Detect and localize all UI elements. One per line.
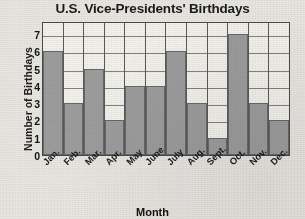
bar: [84, 69, 104, 155]
y-tick-label: 2: [26, 116, 40, 127]
chart-title: U.S. Vice-Presidents' Birthdays: [0, 1, 305, 16]
bar: [228, 34, 248, 155]
bar-slot: [187, 23, 208, 155]
y-tick-label: 4: [26, 82, 40, 93]
bar-slot: [146, 23, 167, 155]
y-tick-label: 0: [26, 151, 40, 162]
plot-area: [42, 22, 290, 156]
bar-slot: [228, 23, 249, 155]
x-slot: Mar.: [83, 158, 104, 198]
x-slot: Dec.: [269, 158, 290, 198]
x-axis-title: Month: [0, 206, 305, 218]
y-tick-label: 6: [26, 47, 40, 58]
y-axis-tick-labels: 01234567: [26, 22, 40, 156]
bar-slot: [249, 23, 270, 155]
bar-slot: [125, 23, 146, 155]
x-slot: May: [125, 158, 146, 198]
bar: [43, 51, 63, 155]
bar-slot: [43, 23, 64, 155]
x-slot: June: [145, 158, 166, 198]
y-tick-label: 7: [26, 30, 40, 41]
bar-slot: [64, 23, 85, 155]
bar-chart-figure: U.S. Vice-Presidents' Birthdays Number o…: [0, 0, 305, 219]
x-slot: Feb.: [63, 158, 84, 198]
bar-slot: [269, 23, 289, 155]
bar-slot: [84, 23, 105, 155]
bar: [146, 86, 166, 155]
x-slot: July: [166, 158, 187, 198]
bar: [166, 51, 186, 155]
y-tick-label: 3: [26, 99, 40, 110]
x-slot: Oct.: [228, 158, 249, 198]
y-tick-label: 1: [26, 133, 40, 144]
x-slot: Aug.: [187, 158, 208, 198]
bars-container: [43, 23, 289, 155]
x-axis-tick-labels: Jan.Feb.Mar.Apr.MayJuneJulyAug.Sept.Oct.…: [42, 158, 290, 198]
x-slot: Apr.: [104, 158, 125, 198]
y-tick-label: 5: [26, 64, 40, 75]
bar: [125, 86, 145, 155]
bar-slot: [208, 23, 229, 155]
x-slot: Sept.: [207, 158, 228, 198]
bar-slot: [166, 23, 187, 155]
x-slot: Jan.: [42, 158, 63, 198]
x-slot: Nov.: [249, 158, 270, 198]
bar-slot: [105, 23, 126, 155]
